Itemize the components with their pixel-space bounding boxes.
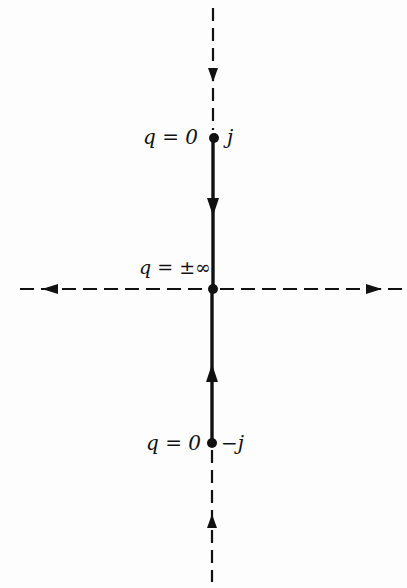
arrow-down-icon — [208, 68, 218, 82]
arrow-right-icon — [366, 284, 382, 294]
label-minus-j: −j — [221, 433, 244, 453]
arrow-left-icon — [42, 284, 58, 294]
origin-point — [208, 284, 218, 294]
label-q-top: q = 0 — [143, 127, 198, 147]
arrow-up-icon — [207, 514, 217, 528]
root-locus-diagram: q = 0 j q = ±∞ q = 0 −j — [0, 0, 407, 588]
label-j: j — [227, 127, 233, 147]
arrow-up-icon — [206, 364, 218, 382]
diagram-graphics — [0, 0, 407, 588]
label-q-infinity: q = ±∞ — [139, 258, 211, 277]
pole-point-top — [209, 133, 219, 143]
arrow-down-icon — [207, 198, 219, 216]
label-q-bottom: q = 0 — [146, 433, 201, 453]
pole-point-bottom — [207, 438, 217, 448]
